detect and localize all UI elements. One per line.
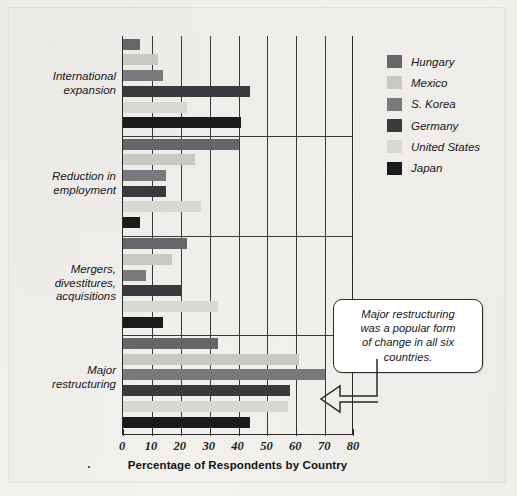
bar [123, 270, 146, 281]
page-speck [88, 466, 90, 468]
category-label-major-restructuring: Major restructuring [6, 364, 116, 391]
category-label-line: employment [53, 184, 116, 196]
bar [123, 186, 166, 197]
bar [123, 317, 163, 328]
bar [123, 102, 187, 113]
bar [123, 201, 201, 212]
x-axis-title: Percentage of Respondents by Country [122, 459, 353, 471]
x-tick-0 [123, 429, 124, 436]
bar [123, 217, 140, 228]
legend-label: Germany [411, 120, 458, 132]
x-tick-label-10: 10 [137, 439, 165, 454]
x-tick-label-50: 50 [252, 439, 280, 454]
legend-swatch-icon [387, 140, 402, 153]
category-label-line: International [53, 70, 116, 82]
category-label-line: expansion [64, 84, 116, 96]
legend-label: Hungary [411, 56, 454, 68]
bar [123, 54, 158, 65]
x-tick-label-70: 70 [310, 439, 338, 454]
group-separator-3 [123, 335, 352, 336]
grouped-bar-chart: International expansion Reduction in emp… [0, 0, 517, 496]
legend-item-japan[interactable]: Japan [387, 157, 480, 178]
bar [123, 301, 218, 312]
bar [123, 139, 239, 150]
legend-label: Mexico [411, 77, 447, 89]
callout-line: countries. [384, 351, 433, 363]
category-label-mergers-divestitures-acquisitions: Mergers, divestitures, acquisitions [6, 263, 116, 304]
x-tick-label-60: 60 [281, 439, 309, 454]
bar [123, 170, 166, 181]
callout-line: of change in all six [362, 336, 454, 348]
bar [123, 39, 140, 50]
callout-arrow-icon [318, 358, 378, 420]
bar [123, 238, 187, 249]
legend-swatch-icon [387, 119, 402, 132]
scanned-page: International expansion Reduction in emp… [0, 0, 517, 496]
x-tick-30 [210, 429, 211, 436]
callout-line: Major restructuring [361, 308, 454, 320]
x-tick-60 [296, 429, 297, 436]
category-label-international-expansion: International expansion [6, 70, 116, 97]
bar [123, 338, 218, 349]
legend-item-germany[interactable]: Germany [387, 115, 480, 136]
bar [123, 417, 250, 428]
bar [123, 354, 299, 365]
bar [123, 369, 325, 380]
bar [123, 70, 163, 81]
legend-swatch-icon [387, 55, 402, 68]
x-tick-80 [353, 429, 354, 436]
legend-label: United States [411, 141, 480, 153]
legend-swatch-icon [387, 76, 402, 89]
bar [123, 401, 288, 412]
category-label-line: divestitures, [55, 277, 116, 289]
x-tick-70 [325, 429, 326, 436]
bar [123, 385, 290, 396]
category-label-line: Mergers, [71, 263, 116, 275]
bar [123, 154, 195, 165]
x-tick-10 [152, 429, 153, 436]
legend-item-hungary[interactable]: Hungary [387, 51, 480, 72]
group-separator-2 [123, 236, 352, 237]
chart-legend: HungaryMexicoS. KoreaGermanyUnited State… [387, 51, 480, 179]
bar [123, 117, 241, 128]
category-label-line: Reduction in [52, 170, 116, 182]
category-label-line: acquisitions [56, 290, 116, 302]
legend-label: S. Korea [411, 98, 456, 110]
x-tick-50 [267, 429, 268, 436]
legend-item-united-states[interactable]: United States [387, 136, 480, 157]
legend-item-mexico[interactable]: Mexico [387, 72, 480, 93]
legend-swatch-icon [387, 98, 402, 111]
group-separator-1 [123, 136, 352, 137]
bar [123, 285, 181, 296]
x-tick-label-20: 20 [166, 439, 194, 454]
bar [123, 86, 250, 97]
x-tick-label-40: 40 [224, 439, 252, 454]
legend-item-s-korea[interactable]: S. Korea [387, 94, 480, 115]
bar [123, 254, 172, 265]
category-axis-labels: International expansion Reduction in emp… [0, 0, 116, 496]
category-label-line: Major [87, 364, 116, 376]
legend-label: Japan [411, 162, 442, 174]
x-tick-20 [181, 429, 182, 436]
callout-line: was a popular form [360, 322, 455, 334]
x-tick-40 [239, 429, 240, 436]
category-label-line: restructuring [52, 378, 116, 390]
x-tick-label-30: 30 [195, 439, 223, 454]
legend-swatch-icon [387, 162, 402, 175]
x-tick-label-80: 80 [339, 439, 367, 454]
x-tick-label-0: 0 [108, 439, 136, 454]
category-label-reduction-in-employment: Reduction in employment [6, 170, 116, 197]
